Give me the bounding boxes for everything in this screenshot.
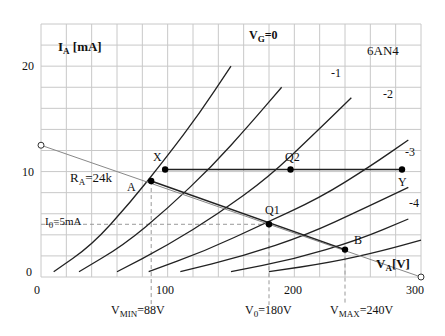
y-tick-0: 0: [26, 266, 32, 278]
grid-minus2-label: -2: [383, 88, 393, 100]
ra-label: RA=24k: [70, 171, 112, 187]
vg0-label: VG=0: [249, 29, 278, 44]
point-a-label: A: [127, 181, 136, 193]
x-tick-300: 300: [406, 284, 424, 296]
point-y-label: Y: [398, 176, 407, 188]
vmax-label: VMAX=240V: [330, 304, 393, 319]
load-line-endpoint-left: [38, 142, 44, 148]
point-q1-label: Q1: [265, 204, 280, 216]
point-b-label: B: [354, 234, 362, 246]
y-axis-label: IA [mA]: [58, 40, 102, 56]
i0-label: I0=5mA: [45, 216, 81, 230]
point-x-label: X: [153, 151, 162, 163]
x-tick-200: 200: [284, 284, 302, 296]
x-tick-0: 0: [34, 284, 40, 296]
x-tick-100: 100: [156, 284, 174, 296]
y-tick-10: 10: [22, 166, 34, 178]
tube-type-label: 6AN4: [367, 44, 399, 57]
load-line-extension: [41, 145, 421, 277]
load-line-endpoint-right: [418, 274, 424, 280]
point-q2-label: Q2: [285, 151, 300, 163]
v0-label: V0=180V: [245, 304, 292, 319]
grid-minus4-label: -4: [409, 197, 419, 209]
grid-minus3-label: -3: [405, 146, 415, 158]
grid-minus1-label: -1: [331, 67, 341, 79]
vmin-label: VMIN=88V: [111, 304, 165, 319]
y-tick-20: 20: [22, 60, 34, 72]
x-axis-label: VA[V]: [376, 257, 410, 273]
